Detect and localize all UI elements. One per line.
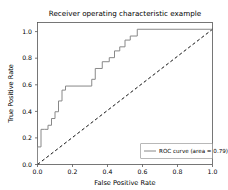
- x-tick-label: 0.8: [173, 168, 183, 175]
- y-tick-label: 0.8: [22, 54, 32, 61]
- x-tick-labels: 0.0 0.2 0.4 0.6 0.8 1.0: [33, 168, 218, 175]
- y-tick-label: 0.4: [22, 108, 32, 115]
- y-tick-label: 1.0: [22, 28, 32, 35]
- x-tick-label: 0.0: [33, 168, 43, 175]
- chart-title: Receiver operating characteristic exampl…: [49, 9, 202, 18]
- legend-label-roc: ROC curve (area = 0.79): [159, 148, 228, 154]
- y-tick-labels: 0.0 0.2 0.4 0.6 0.8 1.0: [22, 28, 32, 168]
- x-tick-label: 0.4: [103, 168, 113, 175]
- x-tick-label: 0.2: [68, 168, 78, 175]
- legend[interactable]: ROC curve (area = 0.79): [141, 144, 228, 159]
- y-tick-label: 0.0: [22, 161, 32, 168]
- x-axis-title: False Positive Rate: [94, 179, 155, 187]
- x-tick-label: 0.6: [138, 168, 148, 175]
- y-axis-title: True Positive Rate: [7, 64, 15, 124]
- y-tick-label: 0.2: [22, 134, 32, 141]
- roc-chart-figure: Receiver operating characteristic exampl…: [0, 0, 228, 190]
- x-tick-label: 1.0: [208, 168, 218, 175]
- chart-canvas: Receiver operating characteristic exampl…: [0, 0, 228, 190]
- y-tick-label: 0.6: [22, 81, 32, 88]
